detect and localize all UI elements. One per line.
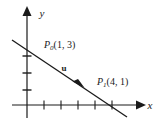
y-axis-arrowhead — [23, 6, 32, 16]
svg-text:P0(1, 3): P0(1, 3) — [43, 39, 75, 52]
point-label-p1: P1(4, 1) — [96, 76, 128, 89]
p0-coords: (1, 3) — [54, 39, 76, 51]
point-label-p0: P0(1, 3) — [43, 39, 75, 52]
vector-line-figure: x y u P0(1, 3) P1(4, 1 — [0, 0, 163, 124]
p0-name: P — [43, 39, 50, 50]
vector-arrowhead — [73, 79, 85, 88]
y-axis-label: y — [39, 7, 45, 19]
svg-text:P1(4, 1): P1(4, 1) — [96, 76, 128, 89]
x-axis-label: x — [147, 99, 153, 111]
x-axis: x — [12, 99, 153, 111]
p1-name: P — [96, 76, 103, 87]
p1-coords: (4, 1) — [107, 76, 129, 88]
y-axis: y — [23, 6, 45, 118]
figure-canvas: x y u P0(1, 3) P1(4, 1 — [0, 0, 163, 124]
vector-label-u: u — [61, 63, 66, 73]
x-axis-arrowhead — [136, 101, 146, 110]
